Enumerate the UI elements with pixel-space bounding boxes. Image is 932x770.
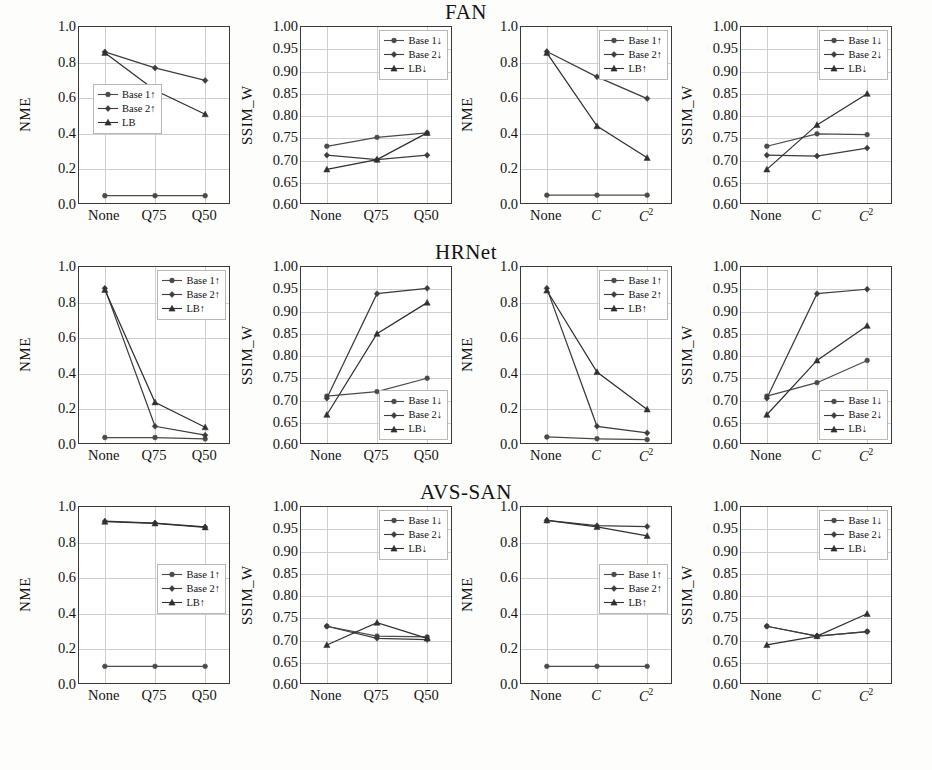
- legend-marker-icon: [823, 425, 845, 434]
- chart-legend: Base 1↓ Base 2↓ LB↓: [819, 30, 888, 80]
- legend-marker-icon: [383, 425, 405, 434]
- series-0: [544, 193, 649, 198]
- chart-panel: SSIM_W1.000.950.900.850.800.750.700.650.…: [240, 266, 460, 476]
- legend-item: LB↑: [161, 596, 220, 610]
- legend-marker-icon: [603, 598, 625, 607]
- y-tick-label: 0.65: [713, 415, 738, 430]
- legend-label: LB↓: [408, 62, 427, 76]
- plot-area: Base 1↓ Base 2↓ LB↓: [740, 506, 892, 684]
- legend-item: Base 1↑: [603, 274, 662, 288]
- y-tick-label: 0.70: [273, 152, 298, 167]
- legend-marker-icon: [603, 36, 625, 45]
- y-tick-label: 0.75: [273, 370, 298, 385]
- row-title: HRNet: [0, 240, 932, 265]
- y-axis-ticks: 1.000.950.900.850.800.750.700.650.60: [254, 26, 298, 204]
- y-tick-label: 0.90: [713, 303, 738, 318]
- x-tick-label: C: [591, 687, 601, 704]
- y-tick-label: 0.8: [58, 54, 76, 69]
- legend-item: Base 1↓: [383, 394, 442, 408]
- y-axis-ticks: 1.00.80.60.40.20.0: [32, 26, 76, 204]
- legend-item: Base 2↑: [603, 48, 662, 62]
- x-tick-label: None: [88, 687, 119, 704]
- y-tick-label: 0.4: [58, 366, 76, 381]
- y-tick-label: 0.8: [500, 534, 518, 549]
- plot-area: Base 1↑ Base 2↑ LB: [78, 26, 230, 204]
- y-tick-label: 0.2: [500, 161, 518, 176]
- legend-marker-icon: [161, 276, 183, 285]
- legend-item: Base 2↑: [603, 582, 662, 596]
- legend-marker-icon: [383, 397, 405, 406]
- x-tick-label: C2: [859, 447, 873, 465]
- x-tick-label: C2: [859, 207, 873, 225]
- y-tick-label: 1.0: [500, 259, 518, 274]
- legend-marker-icon: [161, 598, 183, 607]
- chart-legend: Base 1↓ Base 2↓ LB↓: [819, 510, 888, 560]
- legend-item: LB↑: [603, 62, 662, 76]
- legend-item: Base 1↑: [161, 568, 220, 582]
- series-0: [544, 664, 649, 669]
- legend-marker-icon: [97, 90, 119, 99]
- y-tick-label: 0.95: [273, 521, 298, 536]
- x-tick-label: None: [530, 207, 561, 224]
- legend-label: LB↓: [848, 62, 867, 76]
- y-tick-label: 0.70: [713, 152, 738, 167]
- series-1: [764, 145, 870, 159]
- chart-row: HRNetNME1.00.80.60.40.20.0 Base 1↑ Base …: [0, 240, 932, 480]
- y-tick-label: 0.85: [713, 326, 738, 341]
- legend-marker-icon: [161, 304, 183, 313]
- plot-area: Base 1↓ Base 2↓ LB↓: [300, 266, 452, 444]
- legend-item: Base 2↓: [383, 528, 442, 542]
- legend-marker-icon: [823, 516, 845, 525]
- chart-legend: Base 1↑ Base 2↑ LB↑: [599, 30, 668, 80]
- row-title: AVS-SAN: [0, 480, 932, 505]
- series-1: [102, 49, 208, 83]
- x-tick-label: None: [88, 207, 119, 224]
- y-tick-label: 0.60: [713, 197, 738, 212]
- legend-marker-icon: [97, 118, 119, 127]
- y-tick-label: 0.0: [58, 677, 76, 692]
- chart-panel: NME1.00.80.60.40.20.0 Base 1↑ Base 2↑ LB…: [18, 506, 238, 716]
- y-tick-label: 0.4: [500, 126, 518, 141]
- x-tick-label: Q75: [364, 207, 389, 224]
- y-tick-label: 0.0: [500, 437, 518, 452]
- chart-row: AVS-SANNME1.00.80.60.40.20.0 Base 1↑ Bas…: [0, 480, 932, 720]
- legend-label: Base 1↓: [848, 34, 882, 48]
- y-tick-label: 0.75: [273, 610, 298, 625]
- legend-label: Base 2↓: [848, 408, 882, 422]
- chart-row: FANNME1.00.80.60.40.20.0 Base 1↑ Base 2↑…: [0, 0, 932, 240]
- y-tick-label: 0.95: [713, 41, 738, 56]
- y-tick-label: 1.0: [58, 259, 76, 274]
- legend-marker-icon: [603, 64, 625, 73]
- y-tick-label: 0.90: [713, 63, 738, 78]
- y-tick-label: 0.6: [500, 90, 518, 105]
- legend-item: Base 2↓: [823, 528, 882, 542]
- legend-item: LB↓: [383, 542, 442, 556]
- y-tick-label: 0.6: [58, 570, 76, 585]
- legend-item: Base 1↓: [383, 34, 442, 48]
- y-axis-ticks: 1.000.950.900.850.800.750.700.650.60: [254, 266, 298, 444]
- chart-legend: Base 1↑ Base 2↑ LB↑: [157, 270, 226, 320]
- legend-marker-icon: [161, 290, 183, 299]
- y-tick-label: 0.65: [273, 415, 298, 430]
- chart-legend: Base 1↓ Base 2↓ LB↓: [379, 390, 448, 440]
- x-tick-label: Q75: [142, 447, 167, 464]
- legend-item: Base 1↑: [603, 568, 662, 582]
- chart-panel: NME1.00.80.60.40.20.0 Base 1↑ Base 2↑ LB…: [460, 266, 680, 476]
- y-tick-label: 1.00: [273, 499, 298, 514]
- y-tick-label: 0.85: [713, 566, 738, 581]
- legend-label: Base 2↓: [848, 528, 882, 542]
- x-tick-label: None: [750, 447, 781, 464]
- legend-item: Base 1↑: [161, 274, 220, 288]
- legend-marker-icon: [603, 570, 625, 579]
- x-tick-label: None: [310, 687, 341, 704]
- legend-marker-icon: [823, 36, 845, 45]
- y-axis-ticks: 1.000.950.900.850.800.750.700.650.60: [254, 506, 298, 684]
- legend-label: LB↓: [408, 542, 427, 556]
- chart-panel: SSIM_W1.000.950.900.850.800.750.700.650.…: [240, 26, 460, 236]
- y-tick-label: 0.8: [500, 54, 518, 69]
- y-tick-label: 0.65: [273, 175, 298, 190]
- series-0: [102, 664, 207, 669]
- y-tick-label: 0.60: [273, 437, 298, 452]
- legend-marker-icon: [603, 304, 625, 313]
- chart-legend: Base 1↑ Base 2↑ LB↑: [157, 564, 226, 614]
